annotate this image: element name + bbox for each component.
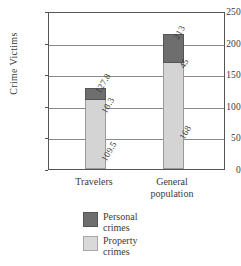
legend-item-property-crimes[interactable]: Property crimes (83, 235, 137, 257)
bar-general-population[interactable] (163, 34, 184, 169)
gridline-50 (49, 139, 224, 140)
gridline-150 (49, 76, 224, 77)
legend-swatch-property-crimes (83, 236, 98, 251)
bar-segment-general-property[interactable] (163, 63, 184, 169)
x-category-label-travelers: Travelers (49, 176, 139, 188)
x-category-label-general-population: General population (127, 176, 217, 199)
legend-swatch-personal-crimes (83, 212, 98, 227)
y-axis-title: Crime Victims (8, 9, 19, 119)
legend: Personal crimes Property crimes (83, 211, 137, 257)
legend-label-personal-crimes: Personal crimes (103, 211, 137, 233)
x-category-label-travelers-line1: Travelers (49, 176, 139, 188)
legend-item-personal-crimes[interactable]: Personal crimes (83, 211, 137, 233)
value-label-travelers-total: 127.8 (93, 72, 112, 95)
plot-area: 127.8 18.3 109.5 213 45 168 (48, 12, 225, 170)
stacked-bar-chart: Crime Victims 250 200 150 100 50 0 127.8… (0, 0, 241, 266)
x-category-label-general-line1: General (127, 176, 217, 188)
y-tick-mark-0 (45, 170, 48, 171)
x-category-label-general-line2: population (127, 188, 217, 200)
gridline-100 (49, 108, 224, 109)
gridline-200 (49, 45, 224, 46)
legend-label-property-crimes: Property crimes (103, 235, 137, 257)
